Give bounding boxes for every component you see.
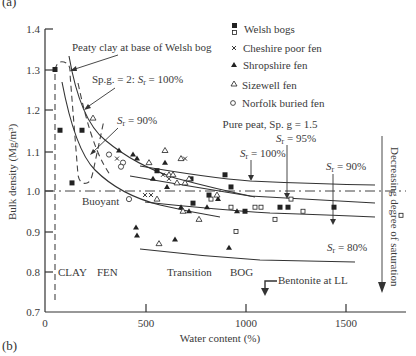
chart: 1.4 1.3 1.2 1.1 1.0 0.9 0.8 0.7 0 500 10… bbox=[0, 0, 416, 356]
sr80-label: Sr = 80% bbox=[327, 241, 367, 255]
open-square-marker bbox=[399, 213, 403, 217]
x-marker bbox=[149, 193, 153, 197]
buoyant-label: Buoyant bbox=[82, 195, 119, 207]
legend-norfolk: Norfolk buried fen bbox=[242, 97, 325, 109]
filled-triangle-marker bbox=[134, 233, 140, 238]
xtick-label: 0 bbox=[42, 317, 48, 329]
filled-square-marker bbox=[286, 205, 291, 210]
legend-sizewell: Sizewell fen bbox=[242, 79, 297, 91]
x-axis-label: Water content (%) bbox=[180, 332, 261, 345]
legend-cheshire: Cheshire poor fen bbox=[243, 42, 322, 54]
ytick-label: 0.8 bbox=[26, 266, 40, 278]
peaty-clay-arrow bbox=[72, 55, 118, 70]
sr90-left-label: Sr = 90% bbox=[117, 114, 157, 128]
open-triangle-marker bbox=[154, 196, 160, 201]
y-axis-label: Bulk density (Mg/m³) bbox=[6, 124, 19, 221]
legend-welsh-bogs: Welsh bogs bbox=[244, 23, 295, 35]
open-triangle-marker bbox=[174, 180, 180, 185]
filled-square-marker bbox=[223, 172, 228, 177]
x-marker bbox=[143, 193, 147, 197]
open-triangle-marker bbox=[146, 160, 152, 165]
pure-peat-label: Pure peat, Sp. g = 1.5 bbox=[223, 118, 318, 130]
open-triangle-marker bbox=[156, 241, 162, 246]
svg-text:Sp.g. = 2: Sr = 100%: Sp.g. = 2: Sr = 100% bbox=[92, 73, 183, 87]
peat-sr80-curve bbox=[140, 249, 355, 262]
filled-triangle-marker bbox=[226, 245, 232, 250]
open-square-marker bbox=[301, 209, 305, 213]
open-square-marker bbox=[253, 205, 257, 209]
bentonite-label: Bentonite at LL bbox=[278, 274, 348, 286]
ytick-label: 0.7 bbox=[26, 306, 40, 318]
filled-square-marker bbox=[229, 184, 234, 189]
peaty-clay-label: Peaty clay at base of Welsh bog bbox=[72, 41, 212, 53]
filled-square-marker bbox=[70, 180, 75, 185]
filled-square-marker bbox=[278, 205, 283, 210]
open-triangle-marker bbox=[90, 115, 96, 120]
filled-square-marker bbox=[80, 128, 85, 133]
filled-triangle-marker bbox=[172, 237, 178, 242]
open-triangle-marker bbox=[162, 148, 168, 153]
filled-triangle-marker bbox=[150, 176, 156, 181]
zone-clay: CLAY bbox=[58, 266, 87, 278]
sr90-right-label: Sr = 90% bbox=[326, 160, 366, 174]
filled-triangle-marker bbox=[204, 204, 210, 209]
filled-triangle-marker bbox=[130, 152, 136, 157]
filled-square-marker bbox=[58, 128, 63, 133]
filled-triangle-marker bbox=[116, 148, 122, 153]
open-triangle-marker bbox=[178, 156, 184, 161]
open-circle-marker bbox=[118, 164, 123, 169]
sr100-label: Sr = 100% bbox=[240, 147, 286, 161]
open-square-marker bbox=[209, 197, 213, 201]
ytick-label: 1.1 bbox=[26, 146, 40, 158]
sr95-label: Sr = 95% bbox=[276, 132, 316, 146]
filled-square-marker bbox=[332, 205, 337, 210]
filled-square-marker bbox=[191, 201, 196, 206]
x-marker bbox=[115, 157, 119, 161]
filled-triangle-marker bbox=[164, 184, 170, 189]
legend-shropshire: Shropshire fen bbox=[243, 59, 308, 71]
legend: Welsh bogs Cheshire poor fen Shropshire … bbox=[231, 23, 325, 109]
ytick-label: 1.4 bbox=[26, 23, 40, 35]
open-square-marker bbox=[289, 197, 293, 201]
zone-transition: Transition bbox=[167, 266, 212, 278]
filled-triangle-marker bbox=[162, 160, 168, 165]
open-square-marker bbox=[259, 205, 263, 209]
open-circle-marker bbox=[106, 152, 111, 157]
ytick-label: 0.9 bbox=[26, 226, 40, 238]
filled-square-marker bbox=[243, 209, 248, 214]
y-tick-labels: 1.4 1.3 1.2 1.1 1.0 0.9 0.8 0.7 bbox=[26, 23, 40, 318]
x-marker bbox=[167, 177, 171, 181]
open-square-marker bbox=[229, 205, 233, 209]
open-square-marker bbox=[234, 230, 238, 234]
filled-triangle-marker bbox=[133, 224, 139, 229]
open-triangle-marker bbox=[214, 192, 220, 197]
ytick-label: 1.2 bbox=[26, 104, 40, 116]
x-tick-labels: 0 500 1000 1500 bbox=[42, 317, 357, 329]
ytick-label: 1.3 bbox=[26, 64, 40, 76]
open-circle-marker bbox=[126, 197, 131, 202]
xtick-label: 500 bbox=[138, 317, 155, 329]
filled-square-marker bbox=[155, 168, 160, 173]
xtick-label: 1000 bbox=[235, 317, 258, 329]
xtick-label: 1500 bbox=[335, 317, 358, 329]
open-square-marker bbox=[273, 217, 277, 221]
ytick-label: 1.0 bbox=[26, 185, 40, 197]
peat-sr95-curve bbox=[130, 176, 375, 203]
spg2-label: Sp.g. = 2: Sr = 100% bbox=[92, 73, 183, 87]
zone-bog: BOG bbox=[230, 266, 253, 278]
filled-square-marker bbox=[53, 67, 58, 72]
open-triangle-marker bbox=[196, 216, 202, 221]
zone-fen: FEN bbox=[97, 266, 118, 278]
